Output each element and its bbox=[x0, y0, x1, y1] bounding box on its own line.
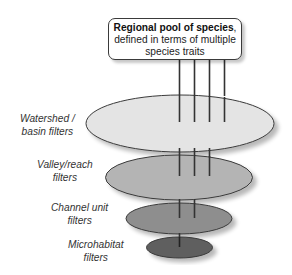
pool-box-line3: species traits bbox=[109, 46, 241, 58]
microhabitat-label-line2: filters bbox=[68, 251, 124, 264]
channel-unit-label: Channel unit filters bbox=[51, 201, 108, 227]
channel-unit-label-line1: Channel unit bbox=[51, 201, 108, 214]
watershed-label-line2: basin filters bbox=[20, 125, 75, 138]
pool-box-line2: defined in terms of multiple bbox=[109, 34, 241, 46]
microhabitat-label: Microhabitat filters bbox=[68, 238, 124, 264]
species-filter-diagram: Regional pool of species, defined in ter… bbox=[0, 0, 292, 275]
valley-label-line2: filters bbox=[37, 171, 93, 184]
pool-box-title-suffix: , bbox=[234, 22, 237, 33]
valley-filter-ellipse bbox=[106, 148, 253, 200]
watershed-filter-ellipse bbox=[86, 95, 274, 152]
valley-label: Valley/reach filters bbox=[37, 158, 93, 184]
regional-species-pool-box: Regional pool of species, defined in ter… bbox=[108, 18, 242, 60]
channel-unit-filter-ellipse bbox=[126, 199, 232, 234]
pool-box-title: Regional pool of species bbox=[114, 22, 234, 33]
channel-unit-label-line2: filters bbox=[51, 214, 108, 227]
watershed-label: Watershed / basin filters bbox=[20, 112, 75, 138]
trait-lines-pool bbox=[180, 60, 225, 96]
valley-label-line1: Valley/reach bbox=[37, 158, 93, 171]
microhabitat-filter-ellipse bbox=[147, 233, 213, 258]
watershed-label-line1: Watershed / bbox=[20, 112, 75, 125]
microhabitat-label-line1: Microhabitat bbox=[68, 238, 124, 251]
